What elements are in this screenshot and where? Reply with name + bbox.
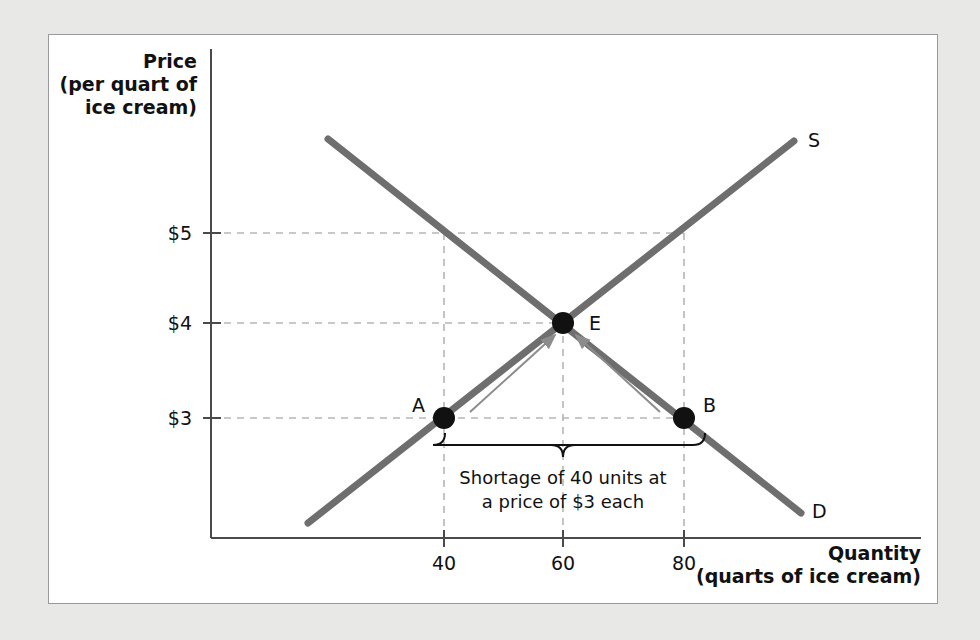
shortage-text-line2: a price of $3 each [482, 491, 644, 512]
x-tick-label-60: 60 [551, 552, 575, 574]
shortage-brace [433, 433, 705, 457]
x-tick-label-40: 40 [432, 552, 456, 574]
point-b-label: B [703, 394, 716, 416]
point-a-label: A [412, 394, 425, 416]
point-b [673, 407, 695, 429]
arrow-from-b-to-e [576, 335, 660, 412]
y-axis-title-line3: ice cream) [85, 96, 197, 118]
y-tick-label-4: $4 [168, 312, 192, 334]
y-axis-title: Price (per quart of ice cream) [60, 50, 198, 118]
x-axis-title: Quantity (quarts of ice cream) [696, 542, 922, 587]
supply-curve-label: S [808, 129, 820, 151]
y-tick-label-3: $3 [168, 407, 192, 429]
y-axis-title-line2: (per quart of [60, 73, 198, 95]
figure-panel: $5 $4 $3 40 60 80 Price (per quart of ic… [48, 34, 938, 604]
shortage-text-line1: Shortage of 40 units at [459, 467, 666, 488]
point-a [433, 407, 455, 429]
y-tick-label-5: $5 [168, 222, 192, 244]
supply-demand-chart: $5 $4 $3 40 60 80 Price (per quart of ic… [49, 35, 937, 603]
demand-curve-label: D [812, 500, 827, 522]
shortage-annotation: Shortage of 40 units at a price of $3 ea… [433, 433, 705, 512]
x-axis-title-line1: Quantity [828, 542, 922, 564]
y-axis-title-line1: Price [143, 50, 197, 72]
arrow-from-a-to-e [470, 335, 555, 412]
x-axis-title-line2: (quarts of ice cream) [696, 565, 921, 587]
point-e [552, 312, 574, 334]
point-e-label: E [589, 312, 601, 334]
supply-curve [308, 141, 794, 523]
x-tick-label-80: 80 [672, 552, 696, 574]
tick-labels: $5 $4 $3 40 60 80 [168, 222, 696, 574]
